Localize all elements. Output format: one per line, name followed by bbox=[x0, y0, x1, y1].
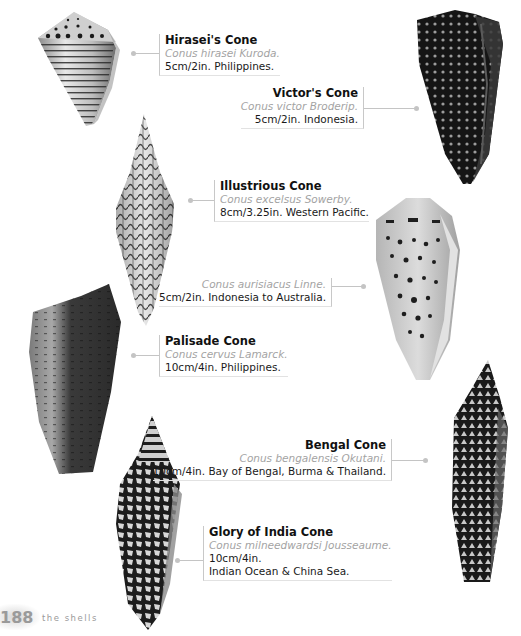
shell-size-location: 5cm/2in. Philippines. bbox=[165, 60, 280, 73]
shell-size-location: 10cm/4in. bbox=[209, 552, 392, 565]
page-footer: 188 the shells bbox=[0, 604, 140, 630]
glory-of-india-connector-line bbox=[178, 560, 204, 561]
glory-of-india-cone-label: Glory of India Cone Conus milneedwardsi … bbox=[203, 526, 392, 581]
illustrious-cone-label: Illustrious Cone Conus excelsus Sowerby.… bbox=[214, 180, 369, 222]
shell-common-name: Palisade Cone bbox=[165, 335, 288, 348]
shell-common-name: Bengal Cone bbox=[153, 439, 386, 452]
hirasei-cone-label: Hirasei's Cone Conus hirasei Kuroda. 5cm… bbox=[159, 34, 280, 76]
shell-scientific-name: Conus cervus Lamarck. bbox=[165, 348, 288, 361]
shell-common-name: Victor's Cone bbox=[241, 87, 358, 100]
victors-cone-label: Victor's Cone Conus victor Broderip. 5cm… bbox=[241, 87, 364, 129]
aurisiacus-cone-image bbox=[366, 190, 468, 382]
victor-connector-line bbox=[364, 108, 414, 109]
shell-common-name: Glory of India Cone bbox=[209, 526, 392, 539]
shell-size-location: 10cm/4in. Philippines. bbox=[165, 361, 288, 374]
bengal-connector-dot bbox=[423, 458, 428, 463]
bengal-cone-image bbox=[436, 358, 510, 584]
palisade-connector-line bbox=[134, 355, 160, 356]
shell-scientific-name: Conus aurisiacus Linne. bbox=[159, 278, 326, 291]
illustrious-connector-line bbox=[191, 200, 215, 201]
aurisiacus-connector-line bbox=[332, 286, 362, 287]
victor-connector-dot bbox=[414, 106, 419, 111]
shell-distribution: Indian Ocean & China Sea. bbox=[209, 565, 392, 578]
shell-size-location: 10cm/4in. Bay of Bengal, Burma & Thailan… bbox=[153, 465, 386, 478]
shell-scientific-name: Conus victor Broderip. bbox=[241, 100, 358, 113]
aurisiacus-cone-label: Conus aurisiacus Linne. 5cm/2in. Indones… bbox=[159, 278, 332, 307]
shell-scientific-name: Conus bengalensis Okutani. bbox=[153, 452, 386, 465]
aurisiacus-connector-dot bbox=[361, 284, 366, 289]
hirasei-cone-image bbox=[36, 10, 130, 128]
shell-common-name: Hirasei's Cone bbox=[165, 34, 280, 47]
bengal-cone-label: Bengal Cone Conus bengalensis Okutani. 1… bbox=[153, 439, 392, 481]
shell-scientific-name: Conus milneedwardsi Jousseaume. bbox=[209, 539, 392, 552]
shell-scientific-name: Conus hirasei Kuroda. bbox=[165, 47, 280, 60]
shell-size-location: 8cm/3.25in. Western Pacific. bbox=[220, 206, 369, 219]
hirasei-connector-line bbox=[134, 53, 160, 54]
cone-shell-icon bbox=[36, 10, 130, 128]
shell-common-name: Illustrious Cone bbox=[220, 180, 369, 193]
shell-size-location: 5cm/2in. Indonesia. bbox=[241, 113, 358, 126]
section-title: the shells bbox=[42, 613, 98, 623]
palisade-cone-label: Palisade Cone Conus cervus Lamarck. 10cm… bbox=[159, 335, 288, 377]
shell-size-location: 5cm/2in. Indonesia to Australia. bbox=[159, 291, 326, 304]
bengal-connector-line bbox=[392, 460, 424, 461]
victors-cone-image bbox=[415, 4, 507, 186]
shell-scientific-name: Conus excelsus Sowerby. bbox=[220, 193, 369, 206]
page-number: 188 bbox=[0, 608, 33, 627]
